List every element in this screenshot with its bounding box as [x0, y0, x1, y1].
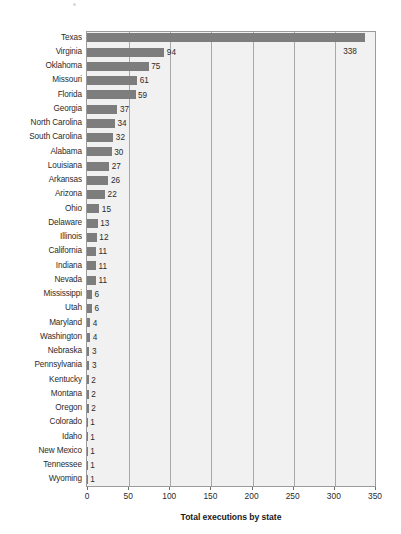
bar-row: Texas338 — [0, 31, 401, 46]
x-tick-mark-0 — [87, 487, 88, 490]
category-label-montana: Montana — [51, 388, 82, 399]
bar-row: Oregon2 — [0, 402, 401, 417]
bar-row: Kentucky2 — [0, 373, 401, 388]
category-label-indiana: Indiana — [56, 260, 82, 271]
bar-row: Ohio15 — [0, 202, 401, 217]
bar-row: Utah6 — [0, 302, 401, 317]
category-label-georgia: Georgia — [54, 103, 82, 114]
bar-maryland — [87, 318, 90, 327]
x-tick-label-250: 250 — [286, 491, 300, 502]
bar-value-virginia: 94 — [167, 47, 176, 58]
bar-value-alabama: 30 — [114, 147, 123, 158]
bar-indiana — [87, 261, 96, 270]
x-tick-mark-100 — [169, 487, 170, 490]
bar-oregon — [87, 404, 89, 413]
bar-california — [87, 247, 96, 256]
bar-value-north-carolina: 34 — [117, 118, 126, 129]
bar-wyoming — [87, 475, 88, 484]
bar-value-tennessee: 1 — [90, 460, 95, 471]
bar-north-carolina — [87, 119, 115, 128]
bar-row: Arizona22 — [0, 188, 401, 203]
bar-row: Wyoming1 — [0, 473, 401, 488]
category-label-utah: Utah — [65, 302, 82, 313]
bar-chart-figure: Texas338Virginia94Oklahoma75Missouri61Fl… — [0, 0, 401, 534]
bar-value-arizona: 22 — [108, 189, 117, 200]
x-tick-label-350: 350 — [368, 491, 382, 502]
category-label-colorado: Colorado — [50, 416, 82, 427]
bar-alabama — [87, 147, 112, 156]
bar-pennsylvania — [87, 361, 89, 370]
bar-value-ohio: 15 — [102, 204, 111, 215]
bar-value-florida: 59 — [138, 90, 147, 101]
x-tick-mark-50 — [128, 487, 129, 490]
category-label-texas: Texas — [61, 32, 82, 43]
bar-value-delaware: 13 — [100, 218, 109, 229]
bar-value-mississippi: 6 — [94, 289, 99, 300]
bar-nevada — [87, 276, 96, 285]
category-label-pennsylvania: Pennsylvania — [34, 359, 82, 370]
bar-row: Virginia94 — [0, 45, 401, 60]
bar-idaho — [87, 432, 88, 441]
bar-louisiana — [87, 162, 109, 171]
category-label-wyoming: Wyoming — [49, 473, 82, 484]
bar-row: Delaware13 — [0, 216, 401, 231]
category-label-arkansas: Arkansas — [49, 174, 82, 185]
x-tick-label-100: 100 — [162, 491, 176, 502]
category-label-idaho: Idaho — [62, 431, 82, 442]
category-label-florida: Florida — [58, 89, 82, 100]
bar-value-washington: 4 — [93, 332, 98, 343]
bar-value-south-carolina: 32 — [116, 132, 125, 143]
bar-row: Missouri61 — [0, 74, 401, 89]
bar-south-carolina — [87, 133, 113, 142]
bar-value-oklahoma: 75 — [151, 61, 160, 72]
bar-ohio — [87, 204, 99, 213]
bar-colorado — [87, 418, 88, 427]
x-tick-mark-250 — [293, 487, 294, 490]
bar-washington — [87, 333, 90, 342]
bar-value-idaho: 1 — [90, 432, 95, 443]
category-label-new-mexico: New Mexico — [38, 445, 82, 456]
bar-row: North Carolina34 — [0, 117, 401, 132]
bar-value-pennsylvania: 3 — [92, 360, 97, 371]
category-label-maryland: Maryland — [49, 317, 82, 328]
bar-row: South Carolina32 — [0, 131, 401, 146]
x-tick-label-300: 300 — [327, 491, 341, 502]
bar-value-oregon: 2 — [91, 403, 96, 414]
category-label-delaware: Delaware — [48, 217, 82, 228]
category-label-alabama: Alabama — [50, 146, 82, 157]
category-label-arizona: Arizona — [55, 188, 82, 199]
x-axis-title: Total executions by state — [86, 512, 376, 522]
bar-row: Montana2 — [0, 387, 401, 402]
category-label-washington: Washington — [40, 331, 82, 342]
category-label-north-carolina: North Carolina — [31, 117, 82, 128]
bar-value-georgia: 37 — [120, 104, 129, 115]
bar-oklahoma — [87, 62, 149, 71]
x-tick-mark-150 — [210, 487, 211, 490]
bar-nebraska — [87, 347, 89, 356]
bar-arkansas — [87, 176, 108, 185]
bar-rows-container: Texas338Virginia94Oklahoma75Missouri61Fl… — [0, 31, 401, 487]
bar-value-wyoming: 1 — [90, 474, 95, 485]
bar-value-maryland: 4 — [93, 318, 98, 329]
category-label-louisiana: Louisiana — [48, 160, 82, 171]
bar-row: Mississippi6 — [0, 288, 401, 303]
bar-row: Georgia37 — [0, 102, 401, 117]
bar-missouri — [87, 76, 137, 85]
bar-row: Tennessee1 — [0, 459, 401, 474]
bar-arizona — [87, 190, 105, 199]
x-tick-mark-200 — [252, 487, 253, 490]
category-label-tennessee: Tennessee — [43, 459, 82, 470]
bar-value-nebraska: 3 — [92, 346, 97, 357]
bar-value-utah: 6 — [94, 303, 99, 314]
category-label-nebraska: Nebraska — [48, 345, 82, 356]
bar-new-mexico — [87, 447, 88, 456]
bar-value-nevada: 11 — [99, 275, 108, 286]
x-tick-label-50: 50 — [123, 491, 132, 502]
category-label-missouri: Missouri — [52, 74, 82, 85]
bar-row: Louisiana27 — [0, 159, 401, 174]
bar-row: Florida59 — [0, 88, 401, 103]
bar-value-colorado: 1 — [90, 417, 95, 428]
bar-row: Idaho1 — [0, 430, 401, 445]
x-tick-label-150: 150 — [203, 491, 217, 502]
bar-kentucky — [87, 375, 89, 384]
